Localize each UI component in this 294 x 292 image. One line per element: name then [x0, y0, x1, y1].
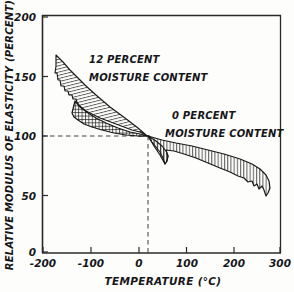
x-axis-ticks	[43, 247, 280, 253]
annotation-0-percent-line2: MOISTURE CONTENT	[165, 128, 285, 139]
annotation-12-percent-line1: 12 PERCENT	[89, 54, 161, 65]
x-axis-title: TEMPERATURE (°C)	[105, 275, 222, 287]
x-tick-label-0: 0	[135, 257, 142, 269]
series-band-0-percent-high-temp	[148, 136, 270, 196]
x-tick-label-minus200: -200	[30, 257, 56, 269]
x-tick-label-minus100: -100	[78, 257, 104, 269]
y-tick-label-50: 50	[21, 190, 36, 202]
figure-container: 200 150 100 50 0 -200 -100 0 100 200 300…	[0, 0, 294, 292]
annotation-0-percent: 0 PERCENT MOISTURE CONTENT	[165, 110, 285, 139]
x-tick-label-200: 200	[223, 257, 245, 269]
annotation-0-percent-line1: 0 PERCENT	[172, 110, 236, 121]
chart-canvas: 200 150 100 50 0 -200 -100 0 100 200 300…	[0, 0, 294, 292]
y-axis-title: RELATIVE MODULUS OF ELASTICITY (PERCENT)	[4, 0, 15, 270]
y-tick-labels: 200 150 100 50 0	[14, 11, 36, 258]
y-tick-label-100: 100	[14, 130, 36, 142]
y-tick-label-150: 150	[14, 71, 36, 83]
annotation-12-percent-line2: MOISTURE CONTENT	[89, 72, 209, 83]
x-tick-label-100: 100	[176, 257, 198, 269]
annotation-12-percent: 12 PERCENT MOISTURE CONTENT	[89, 54, 209, 83]
y-tick-label-200: 200	[14, 11, 36, 23]
reference-lines	[42, 136, 150, 253]
x-tick-labels: -200 -100 0 100 200 300	[30, 257, 291, 269]
x-tick-label-300: 300	[269, 257, 291, 269]
